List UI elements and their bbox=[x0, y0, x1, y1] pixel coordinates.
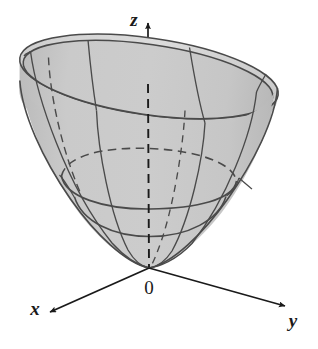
axes-front bbox=[50, 268, 285, 312]
paraboloid-figure: z 0 x y bbox=[0, 0, 318, 349]
paraboloid-surface bbox=[14, 20, 283, 268]
origin-label: 0 bbox=[144, 277, 154, 298]
z-axis-label: z bbox=[129, 9, 138, 30]
x-axis bbox=[50, 268, 149, 312]
y-axis-label: y bbox=[287, 310, 298, 331]
y-axis bbox=[149, 268, 285, 306]
x-axis-label: x bbox=[29, 298, 40, 319]
